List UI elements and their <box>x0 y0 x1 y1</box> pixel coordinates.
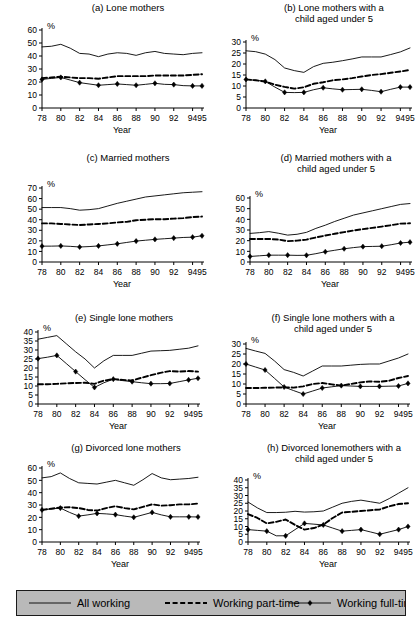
data-point-marker-h <box>284 533 288 538</box>
data-point-marker-d <box>267 253 271 258</box>
x-tick-label-h: 86 <box>319 547 329 557</box>
data-point-marker-g <box>113 512 117 517</box>
x-tick-label-a: 80 <box>56 113 66 123</box>
y-tick-label-e: 15 <box>24 372 34 382</box>
y-axis-label-c: % <box>47 179 55 189</box>
y-tick-label-f: 5 <box>236 389 241 399</box>
data-point-marker-a <box>200 83 204 88</box>
chart-svg-c: (c) Married mothers%01020304050607078808… <box>0 150 210 310</box>
x-tick-label-e: 95 <box>193 409 203 419</box>
y-tick-label-f: 20 <box>232 359 242 369</box>
y-tick-label-a: 50 <box>28 38 38 48</box>
legend-label-part_time: Working part-time <box>213 597 300 609</box>
x-tick-label-b: 95 <box>405 113 415 123</box>
x-tick-label-c: 86 <box>113 267 123 277</box>
x-tick-label-h: 92 <box>375 547 385 557</box>
x-tick-label-e: 82 <box>71 409 81 419</box>
chart-panel-g: (g) Divorced lone mothers%01020304050607… <box>0 440 210 586</box>
x-tick-label-e: 90 <box>146 409 156 419</box>
x-tick-label-h: 82 <box>281 547 291 557</box>
y-tick-label-d: 30 <box>236 225 246 235</box>
x-tick-label-g: 88 <box>129 547 139 557</box>
y-tick-label-d: 60 <box>236 193 246 203</box>
axis-lines-d <box>250 196 412 262</box>
y-tick-label-e: 0 <box>28 399 33 409</box>
chart-title-h: child aged under 5 <box>295 453 373 464</box>
y-tick-label-c: 50 <box>28 204 38 214</box>
y-tick-label-f: 0 <box>236 399 241 409</box>
data-point-marker-d <box>380 244 384 249</box>
y-tick-label-c: 30 <box>28 225 38 235</box>
data-point-marker-a <box>134 83 138 88</box>
data-point-marker-d <box>398 240 402 245</box>
y-tick-label-b: 5 <box>236 92 241 102</box>
x-tick-label-d: 94 <box>396 267 406 277</box>
data-point-marker-f <box>244 361 248 366</box>
data-point-marker-d <box>342 246 346 251</box>
data-point-marker-h <box>359 527 363 532</box>
chart-svg-g: (g) Divorced lone mothers%01020304050607… <box>0 440 210 586</box>
x-tick-label-c: 82 <box>75 267 85 277</box>
y-axis-label-d: % <box>255 189 263 199</box>
x-tick-label-h: 94 <box>394 547 404 557</box>
x-tick-label-f: 88 <box>337 409 347 419</box>
data-point-marker-c <box>200 233 204 238</box>
y-tick-label-g: 40 <box>28 488 38 498</box>
x-tick-label-g: 90 <box>147 547 157 557</box>
x-axis-title-g: Year <box>111 559 129 569</box>
series-line-d-2 <box>250 242 410 256</box>
data-point-marker-c <box>59 243 63 248</box>
chart-title-e: (e) Single lone mothers <box>75 312 173 323</box>
data-point-marker-c <box>134 238 138 243</box>
x-tick-label-h: 95 <box>403 547 413 557</box>
data-point-marker-d <box>361 244 365 249</box>
x-tick-label-f: 90 <box>356 409 366 419</box>
x-axis-title-d: Year <box>321 279 339 289</box>
data-point-marker-a <box>153 81 157 86</box>
x-tick-label-e: 86 <box>109 409 119 419</box>
chart-title-b: child aged under 5 <box>295 13 373 24</box>
data-point-marker-f <box>320 385 324 390</box>
x-tick-label-h: 80 <box>262 547 272 557</box>
y-tick-label-e: 10 <box>24 381 34 391</box>
data-point-marker-f <box>406 381 410 386</box>
y-tick-label-a: 30 <box>28 64 38 74</box>
data-point-marker-d <box>408 240 412 245</box>
x-tick-label-b: 78 <box>241 113 251 123</box>
data-point-marker-d <box>286 253 290 258</box>
x-tick-label-f: 92 <box>375 409 385 419</box>
y-tick-label-a: 60 <box>28 25 38 35</box>
series-line-d-0 <box>250 204 410 236</box>
x-tick-label-g: 82 <box>74 547 84 557</box>
y-tick-label-c: 20 <box>28 236 38 246</box>
chart-panel-f: (f) Single lone mothers with achild aged… <box>210 310 420 440</box>
x-tick-label-b: 92 <box>376 113 386 123</box>
chart-svg-h: (h) Divorced lonemothers with achild age… <box>210 440 420 586</box>
data-point-marker-h <box>302 521 306 526</box>
data-point-marker-h <box>396 527 400 532</box>
x-tick-label-d: 82 <box>283 267 293 277</box>
x-tick-label-g: 86 <box>111 547 121 557</box>
data-point-marker-b <box>340 87 344 92</box>
data-point-marker-b <box>408 85 412 90</box>
y-tick-label-d: 20 <box>236 236 246 246</box>
y-axis-label-g: % <box>47 459 55 469</box>
data-point-marker-b <box>263 79 267 84</box>
series-line-b-1 <box>246 70 410 89</box>
data-point-marker-g <box>168 514 172 519</box>
data-point-marker-c <box>190 235 194 240</box>
y-tick-label-d: 10 <box>236 247 246 257</box>
data-point-marker-f <box>339 383 343 388</box>
data-point-marker-a <box>172 82 176 87</box>
x-tick-label-d: 78 <box>245 267 255 277</box>
data-point-marker-a <box>59 75 63 80</box>
chart-grid: (a) Lone mothers%01020304050607880828486… <box>0 0 420 586</box>
chart-title-c: (c) Married mothers <box>87 152 170 163</box>
x-tick-label-a: 90 <box>150 113 160 123</box>
data-point-marker-g <box>77 514 81 519</box>
axis-lines-f <box>246 342 410 404</box>
data-point-marker-h <box>265 529 269 534</box>
series-line-f-0 <box>246 348 408 376</box>
y-tick-label-c: 10 <box>28 247 38 257</box>
data-point-marker-a <box>96 83 100 88</box>
